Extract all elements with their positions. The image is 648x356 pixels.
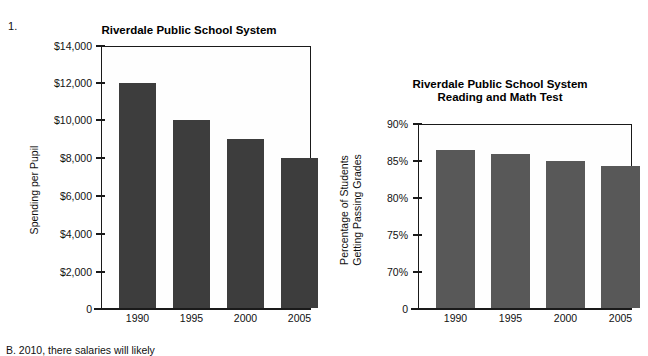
test-scores-bar-1995 [491, 154, 530, 308]
test-scores-xlabel-1990: 1990 [433, 312, 478, 324]
spending-bar-2005 [281, 158, 318, 308]
spending-chart-ytick-2000 [96, 271, 105, 273]
spending-chart-ytick-14000 [96, 45, 105, 47]
test-scores-chart-title-line-1: Riverdale Public School System [368, 78, 632, 91]
spending-chart-ytick-12000 [96, 82, 105, 84]
spending-chart-title-line-1: Riverdale Public School System [54, 24, 324, 37]
test-scores-ylabel-75: 75% [350, 229, 408, 241]
test-scores-ytick-90 [413, 123, 422, 125]
spending-chart-baseline [94, 308, 311, 310]
test-scores-bar-2005 [601, 166, 640, 308]
test-scores-chart-yaxis-title-line-1: Percentage of Students [338, 120, 351, 300]
spending-chart-ylabel-0: 0 [28, 303, 92, 315]
spending-chart-ylabel-6000: $6,000 [28, 190, 92, 202]
worksheet-page: 1. Riverdale Public School System Spendi… [0, 0, 648, 356]
spending-chart-ylabel-8000: $8,000 [28, 152, 92, 164]
spending-chart-title: Riverdale Public School System [54, 24, 324, 37]
spending-chart-ylabel-12000: $12,000 [28, 77, 92, 89]
test-scores-ytick-80 [413, 197, 422, 199]
spending-xlabel-1995: 1995 [169, 312, 214, 324]
spending-chart-ytick-6000 [96, 195, 105, 197]
test-scores-ylabel-70: 70% [350, 266, 408, 278]
spending-chart-ytick-4000 [96, 233, 105, 235]
spending-xlabel-2000: 2000 [223, 312, 268, 324]
spending-bar-2000 [227, 139, 264, 308]
test-scores-xlabel-2005: 2005 [598, 312, 643, 324]
test-scores-bar-2000 [546, 161, 585, 308]
spending-xlabel-1990: 1990 [115, 312, 160, 324]
test-scores-ylabel-85: 85% [350, 155, 408, 167]
spending-chart-ytick-8000 [96, 157, 105, 159]
test-scores-chart-title-line-2: Reading and Math Test [368, 91, 632, 104]
test-scores-ytick-70 [413, 271, 422, 273]
test-scores-ylabel-90: 90% [350, 118, 408, 130]
spending-chart-ylabel-4000: $4,000 [28, 228, 92, 240]
test-scores-ytick-85 [413, 160, 422, 162]
test-scores-chart: Riverdale Public School System Reading a… [338, 78, 638, 323]
test-scores-ytick-75 [413, 234, 422, 236]
spending-chart: Riverdale Public School System Spending … [34, 22, 324, 322]
test-scores-xlabel-2000: 2000 [543, 312, 588, 324]
spending-chart-ylabel-2000: $2,000 [28, 266, 92, 278]
spending-chart-ylabel-14000: $14,000 [28, 40, 92, 52]
spending-bar-1990 [119, 83, 156, 308]
spending-xlabel-2005: 2005 [277, 312, 322, 324]
spending-chart-ytick-10000 [96, 119, 105, 121]
footer-text: B. 2010, there salaries will likely [6, 346, 155, 356]
test-scores-ylabel-0: 0 [350, 303, 408, 315]
test-scores-bar-1990 [436, 150, 475, 308]
test-scores-chart-baseline [411, 308, 632, 310]
question-number: 1. [8, 20, 18, 32]
test-scores-ylabel-80: 80% [350, 192, 408, 204]
footer-clipped-line: B. 2010, there salaries will likely [0, 346, 648, 356]
spending-chart-ylabel-10000: $10,000 [28, 114, 92, 126]
spending-bar-1995 [173, 120, 210, 308]
test-scores-xlabel-1995: 1995 [488, 312, 533, 324]
test-scores-chart-title: Riverdale Public School System Reading a… [368, 78, 632, 104]
